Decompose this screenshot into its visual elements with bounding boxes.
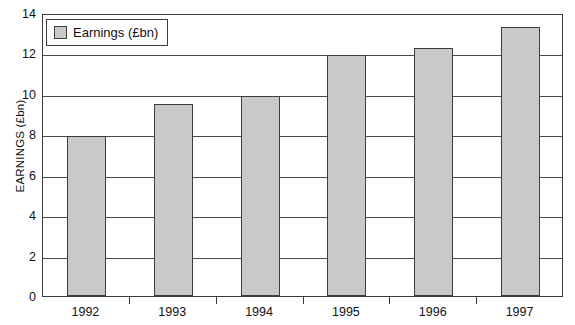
bar <box>154 104 193 296</box>
y-axis-tick-label: 10 <box>4 88 36 102</box>
gridline <box>43 136 562 137</box>
x-axis-tick-label: 1992 <box>40 305 130 319</box>
legend-label: Earnings (£bn) <box>73 25 158 40</box>
x-axis-tick-label: 1995 <box>301 305 391 319</box>
x-axis: 199219931994199519961997 <box>42 297 563 325</box>
y-axis-tick-label: 4 <box>4 209 36 223</box>
x-axis-tick-label: 1994 <box>214 305 304 319</box>
bar <box>327 55 366 296</box>
x-axis-tick <box>476 297 477 304</box>
legend-swatch-icon <box>54 26 67 39</box>
gridline <box>43 258 562 259</box>
x-axis-tick-label: 1993 <box>127 305 217 319</box>
x-axis-tick <box>216 297 217 304</box>
x-axis-tick <box>389 297 390 304</box>
bar-chart: EARNINGS (£bn) 02468101214 1992199319941… <box>0 0 575 325</box>
gridline <box>43 177 562 178</box>
x-axis-tick-label: 1996 <box>388 305 478 319</box>
x-axis-tick <box>129 297 130 304</box>
bar <box>241 96 280 296</box>
gridline <box>43 55 562 56</box>
gridline <box>43 96 562 97</box>
bar <box>501 27 540 296</box>
y-axis-tick-label: 2 <box>4 250 36 264</box>
x-axis-tick <box>303 297 304 304</box>
y-axis-tick-label: 12 <box>4 47 36 61</box>
plot-area <box>42 14 563 297</box>
y-axis-tick-label: 8 <box>4 128 36 142</box>
bar <box>414 48 453 296</box>
bar <box>67 136 106 296</box>
legend: Earnings (£bn) <box>46 19 168 46</box>
y-axis-tick-label: 14 <box>4 7 36 21</box>
y-axis-tick-label: 6 <box>4 169 36 183</box>
gridline <box>43 217 562 218</box>
y-axis-tick-label: 0 <box>4 290 36 304</box>
x-axis-tick-label: 1997 <box>475 305 565 319</box>
